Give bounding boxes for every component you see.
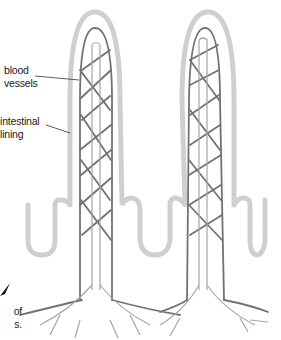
- villi-diagram: [0, 0, 281, 340]
- label-line: of: [0, 305, 22, 318]
- label-intestinal-lining: intestinal lining: [0, 115, 39, 141]
- right-lacteal: [160, 38, 268, 336]
- label-line: lining: [0, 128, 39, 141]
- right-villus-vessels: [160, 28, 268, 312]
- label-line: blood: [4, 64, 38, 77]
- label-line: s.: [0, 318, 22, 331]
- arrow-icon: [0, 283, 10, 296]
- label-partial-caption: of s.: [0, 305, 22, 331]
- left-lacteal: [40, 43, 150, 339]
- label-line: vessels: [4, 77, 38, 90]
- intestinal-lining: [28, 12, 265, 255]
- label-line: intestinal: [0, 115, 39, 128]
- label-blood-vessels: blood vessels: [4, 64, 38, 90]
